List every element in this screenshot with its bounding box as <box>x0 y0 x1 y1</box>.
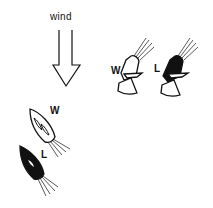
wind-label: wind <box>50 12 72 22</box>
leeward-label-bottom: L <box>41 150 47 160</box>
leeward-boat-stern-icon <box>161 38 198 96</box>
sailing-diagram: wind W L W L <box>0 0 213 208</box>
wind-arrow-icon <box>53 30 80 86</box>
windward-label-bottom: W <box>50 106 59 116</box>
windward-boat-stern-icon <box>118 38 154 94</box>
windward-boat-plan-icon <box>30 109 70 157</box>
leeward-label-top: L <box>154 64 160 74</box>
diagram-canvas <box>0 0 213 208</box>
windward-label-top: W <box>111 66 120 76</box>
leeward-boat-plan-icon <box>20 146 58 196</box>
